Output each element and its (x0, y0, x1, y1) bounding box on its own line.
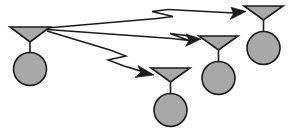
zigzag-break-icon (108, 50, 126, 66)
ray-segment-near (47, 19, 157, 29)
node-receiver-middle-right[interactable] (199, 36, 238, 95)
ray-to-bottom-center (47, 31, 154, 78)
signal-propagation-diagram (0, 0, 291, 139)
node-receiver-top-right[interactable] (244, 6, 283, 65)
zigzag-break-icon (152, 10, 173, 19)
ray-segment-far (168, 10, 239, 14)
transmitter-dish-icon (10, 27, 50, 42)
transmitter-body (14, 53, 47, 86)
node-transmitter[interactable] (10, 27, 50, 86)
node-receiver-bottom-center[interactable] (151, 68, 190, 127)
receiver-body (202, 62, 235, 95)
node-group (10, 6, 283, 127)
diagram-canvas (0, 0, 291, 139)
receiver-body (247, 32, 280, 65)
receiver-dish-icon (199, 36, 238, 50)
ray-to-top-right (47, 7, 246, 28)
receiver-dish-icon (151, 68, 190, 82)
receiver-body (154, 94, 187, 127)
receiver-dish-icon (244, 6, 283, 20)
